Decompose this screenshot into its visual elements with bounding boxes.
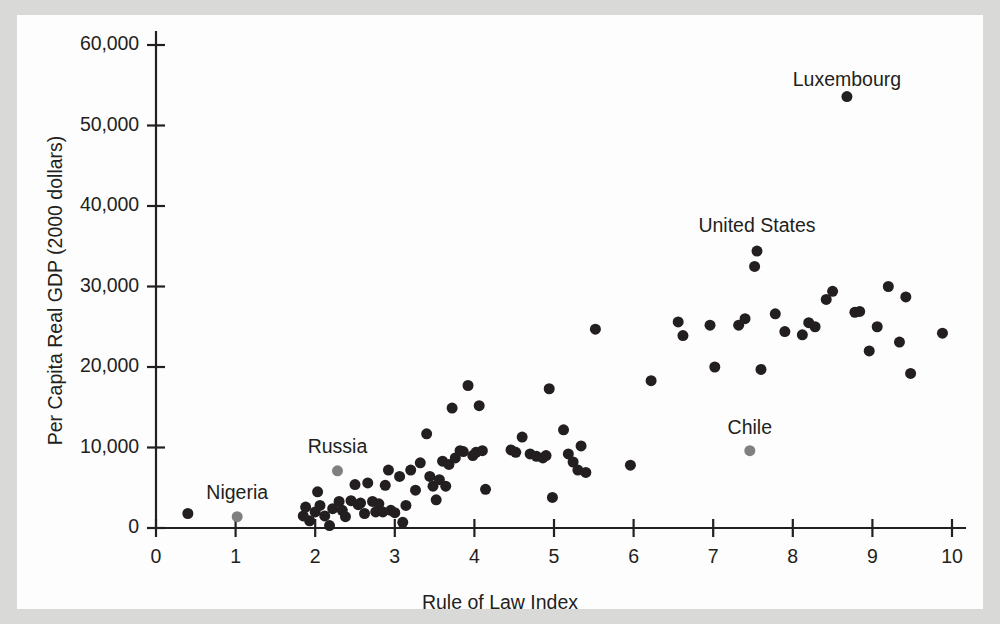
chart-page: 010,00020,00030,00040,00050,00060,000 01… [0, 0, 1000, 624]
scatter-point [744, 445, 755, 456]
scatter-point [841, 91, 852, 102]
scatter-point [312, 486, 323, 497]
scatter-point [458, 446, 469, 457]
scatter-point [383, 465, 394, 476]
annotation-label: United States [698, 214, 815, 237]
scatter-point [625, 460, 636, 471]
scatter-point [324, 520, 335, 531]
axes-group [147, 31, 966, 537]
scatter-point [558, 424, 569, 435]
scatter-point [894, 337, 905, 348]
scatter-point [405, 465, 416, 476]
scatter-point [854, 306, 865, 317]
scatter-point [810, 321, 821, 332]
scatter-point [709, 362, 720, 373]
scatter-point [544, 383, 555, 394]
scatter-point [340, 511, 351, 522]
scatter-point [510, 447, 521, 458]
scatter-point [474, 400, 485, 411]
scatter-point [779, 326, 790, 337]
scatter-point [827, 286, 838, 297]
scatter-point [463, 380, 474, 391]
scatter-point [480, 484, 491, 495]
x-tick-label: 0 [116, 545, 196, 568]
y-tick-label: 10,000 [80, 435, 139, 458]
scatter-point [424, 471, 435, 482]
scatter-point [232, 511, 243, 522]
scatter-point [770, 308, 781, 319]
scatter-point [646, 375, 657, 386]
scatter-point [182, 508, 193, 519]
scatter-point [359, 508, 370, 519]
scatter-point [705, 320, 716, 331]
scatter-point [314, 500, 325, 511]
data-points-group [182, 91, 948, 531]
scatter-point [590, 324, 601, 335]
scatter-point [397, 517, 408, 528]
scatter-point [355, 498, 366, 509]
scatter-point [937, 328, 948, 339]
scatter-point [749, 261, 760, 272]
scatter-point [477, 445, 488, 456]
annotation-label: Luxembourg [793, 68, 901, 91]
y-tick-label: 0 [128, 515, 139, 538]
scatter-plot-canvas [17, 15, 983, 609]
scatter-point [864, 345, 875, 356]
scatter-point [394, 471, 405, 482]
scatter-point [751, 246, 762, 257]
scatter-point [517, 432, 528, 443]
x-tick-label: 8 [753, 545, 833, 568]
scatter-point [415, 457, 426, 468]
y-tick-label: 30,000 [80, 274, 139, 297]
scatter-point [677, 330, 688, 341]
scatter-point [755, 364, 766, 375]
scatter-point [362, 477, 373, 488]
scatter-point [447, 403, 458, 414]
scatter-point [900, 291, 911, 302]
scatter-point [431, 494, 442, 505]
scatter-point [673, 316, 684, 327]
y-tick-label: 50,000 [80, 113, 139, 136]
x-axis-title: Rule of Law Index [17, 591, 983, 614]
scatter-point [410, 485, 421, 496]
scatter-point [332, 465, 343, 476]
scatter-point [883, 281, 894, 292]
scatter-point [300, 502, 311, 513]
y-tick-label: 60,000 [80, 32, 139, 55]
x-tick-label: 9 [832, 545, 912, 568]
scatter-point [797, 329, 808, 340]
x-tick-label: 4 [434, 545, 514, 568]
y-tick-label: 20,000 [80, 354, 139, 377]
x-tick-label: 1 [196, 545, 276, 568]
figure-panel: 010,00020,00030,00040,00050,00060,000 01… [17, 15, 983, 609]
y-tick-label: 40,000 [80, 193, 139, 216]
x-tick-label: 3 [355, 545, 435, 568]
scatter-point [400, 500, 411, 511]
scatter-point [740, 313, 751, 324]
scatter-point [905, 368, 916, 379]
y-axis-title: Per Capita Real GDP (2000 dollars) [44, 81, 67, 501]
scatter-point [547, 492, 558, 503]
annotation-label: Chile [728, 416, 772, 439]
scatter-point [541, 450, 552, 461]
scatter-point [872, 321, 883, 332]
scatter-point [421, 428, 432, 439]
scatter-point [580, 467, 591, 478]
scatter-point [576, 440, 587, 451]
x-tick-label: 10 [912, 545, 992, 568]
annotation-label: Nigeria [206, 481, 268, 504]
scatter-point [350, 479, 361, 490]
x-tick-label: 5 [514, 545, 594, 568]
x-tick-label: 7 [673, 545, 753, 568]
annotation-label: Russia [308, 435, 368, 458]
scatter-point [389, 507, 400, 518]
x-tick-label: 2 [275, 545, 355, 568]
scatter-point [440, 481, 451, 492]
x-tick-label: 6 [594, 545, 674, 568]
scatter-point [380, 480, 391, 491]
